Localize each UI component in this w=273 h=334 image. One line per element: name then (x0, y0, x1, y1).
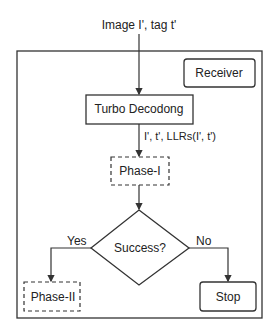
receiver-label: Receiver (195, 66, 242, 80)
stop-label: Stop (216, 290, 241, 304)
edge-label: I', t', LLRs(I', t') (144, 130, 216, 142)
phase2-label: Phase-II (31, 290, 76, 304)
yes-label: Yes (67, 234, 87, 248)
decision-label: Success? (114, 241, 166, 255)
arrow-no (189, 248, 228, 281)
phase1-label: Phase-I (119, 164, 160, 178)
input-label: Image I', tag t' (102, 18, 177, 32)
turbo-label: Turbo Decodong (95, 102, 184, 116)
flowchart: Image I', tag t' Receiver Turbo Decodong… (0, 0, 273, 334)
no-label: No (196, 234, 211, 248)
arrow-yes (51, 248, 91, 281)
